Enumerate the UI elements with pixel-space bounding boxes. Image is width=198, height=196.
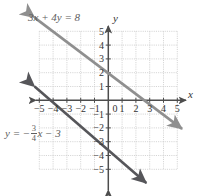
svg-text:−3: −3 (93, 136, 104, 147)
equation-label-line2: y = −34x − 3 (5, 124, 61, 142)
svg-text:−4: −4 (93, 150, 104, 161)
svg-text:2: 2 (99, 67, 104, 78)
x-axis-label: x (187, 88, 193, 100)
equation-label-line2-prefix: y = − (5, 127, 30, 139)
svg-text:4: 4 (161, 103, 166, 114)
svg-text:5: 5 (175, 103, 180, 114)
svg-text:4: 4 (99, 40, 104, 51)
svg-text:3: 3 (99, 53, 104, 64)
equation-label-line1-text: 3x + 4y = 8 (28, 11, 80, 23)
svg-text:1: 1 (120, 103, 125, 114)
svg-text:−2: −2 (75, 103, 86, 114)
svg-text:−5: −5 (93, 164, 104, 175)
equation-label-line1: 3x + 4y = 8 (28, 12, 80, 23)
origin-label: 0 (113, 103, 118, 114)
svg-text:−3: −3 (62, 103, 73, 114)
x-tick-labels: −5 −4 −3 −2 −1 1 2 3 4 5 (34, 103, 180, 114)
svg-text:−1: −1 (93, 109, 104, 120)
svg-text:−5: −5 (34, 103, 45, 114)
svg-text:3: 3 (147, 103, 152, 114)
y-axis-label: y (112, 12, 118, 24)
coordinate-graph-figure: y x −5 −4 −3 −2 −1 1 2 3 4 5 0 5 4 3 2 1… (0, 0, 198, 196)
svg-text:5: 5 (99, 26, 104, 37)
equation-label-line2-suffix: x − 3 (37, 127, 60, 139)
svg-text:1: 1 (99, 81, 104, 92)
svg-text:−2: −2 (93, 122, 104, 133)
svg-text:2: 2 (133, 103, 138, 114)
graph-svg: y x −5 −4 −3 −2 −1 1 2 3 4 5 0 5 4 3 2 1… (0, 0, 198, 196)
svg-text:−4: −4 (48, 103, 59, 114)
